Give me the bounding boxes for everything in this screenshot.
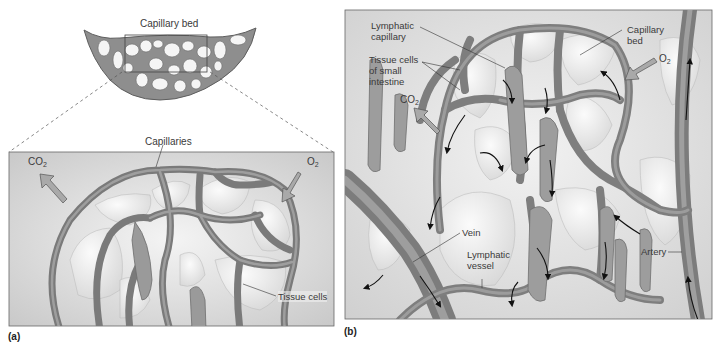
illustration-canvas: [0, 0, 724, 346]
label-artery: Artery: [641, 246, 666, 257]
label-capillary-bed: Capillary bed: [140, 18, 198, 29]
label-lymphatic-capillary: Lymphatic capillary: [371, 20, 414, 42]
label-co2-b: CO2: [400, 94, 419, 108]
panel-letter-b: (b): [344, 326, 357, 337]
label-o2-b: O2: [659, 53, 671, 67]
panel-a-inset: [9, 145, 334, 330]
label-o2-a: O2: [307, 156, 319, 170]
label-vein: Vein: [462, 227, 481, 238]
label-tissue-cells-small-intestine: Tissue cells of small intestine: [369, 54, 418, 87]
label-capillaries: Capillaries: [145, 136, 192, 147]
label-tissue-cells-a: Tissue cells: [278, 291, 327, 302]
panel-letter-a: (a): [8, 331, 20, 342]
label-lymphatic-vessel: Lymphatic vessel: [467, 249, 510, 271]
label-capillary-bed-b: Capillary bed: [627, 24, 664, 46]
capillary-bed-overview: [9, 28, 333, 152]
label-co2-a: CO2: [28, 156, 47, 170]
